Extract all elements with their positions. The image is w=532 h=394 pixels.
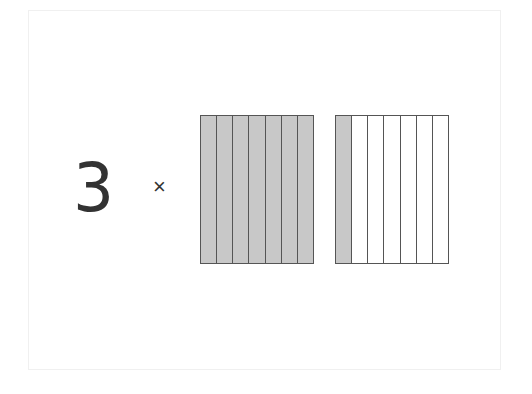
unshaded-part	[352, 116, 368, 263]
shaded-part	[298, 116, 313, 263]
shaded-part	[201, 116, 217, 263]
unshaded-part	[417, 116, 433, 263]
unshaded-part	[433, 116, 448, 263]
unshaded-part	[401, 116, 417, 263]
shaded-part	[233, 116, 249, 263]
whole-bar-2	[335, 115, 449, 264]
whole-bar-1	[200, 115, 314, 264]
shaded-part	[266, 116, 282, 263]
unshaded-part	[368, 116, 384, 263]
shaded-part	[336, 116, 352, 263]
shaded-part	[282, 116, 298, 263]
shaded-part	[249, 116, 265, 263]
times-sign: ×	[153, 172, 166, 202]
unshaded-part	[384, 116, 400, 263]
multiplier-number: 3	[73, 148, 114, 228]
shaded-part	[217, 116, 233, 263]
